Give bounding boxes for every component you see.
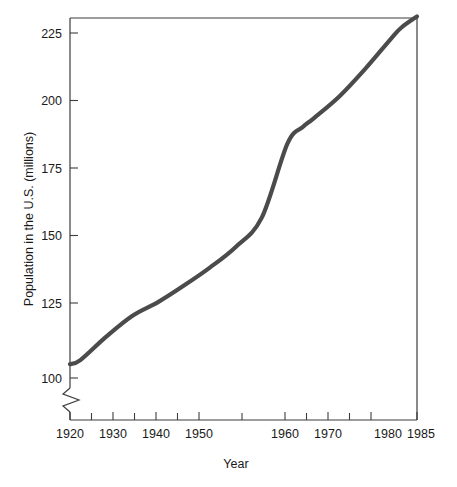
x-tick-label-1930: 1930 (99, 427, 127, 441)
x-tick-label-1920: 1920 (56, 427, 84, 441)
plot-frame (70, 18, 417, 420)
y-tick-label-150: 150 (41, 229, 62, 243)
x-tick-label-1985: 1985 (407, 427, 435, 441)
y-axis-title: Population in the U.S. (millions) (22, 132, 36, 306)
x-axis-tick-labels: 1920 1930 1940 1950 1960 1970 1980 1985 (56, 427, 435, 441)
x-tick-label-1940: 1940 (142, 427, 170, 441)
x-tick-label-1960: 1960 (271, 427, 299, 441)
y-tick-label-125: 125 (41, 297, 62, 311)
y-axis-ticks (70, 33, 78, 378)
chart-page: 225 200 175 150 125 100 (0, 0, 457, 487)
x-tick-label-1980: 1980 (374, 427, 402, 441)
y-tick-label-200: 200 (41, 94, 62, 108)
y-tick-label-100: 100 (41, 372, 62, 386)
y-tick-label-225: 225 (41, 27, 62, 41)
x-tick-label-1950: 1950 (185, 427, 213, 441)
x-tick-label-1970: 1970 (314, 427, 342, 441)
x-axis-title: Year (223, 457, 248, 471)
x-axis-ticks (70, 412, 417, 420)
population-series-line (70, 16, 417, 364)
y-tick-label-175: 175 (41, 162, 62, 176)
x-axis-minor-ticks (92, 413, 350, 420)
population-line-chart: 225 200 175 150 125 100 (0, 0, 457, 487)
y-axis-tick-labels: 225 200 175 150 125 100 (41, 27, 62, 386)
axis-break-zigzag (63, 388, 79, 412)
